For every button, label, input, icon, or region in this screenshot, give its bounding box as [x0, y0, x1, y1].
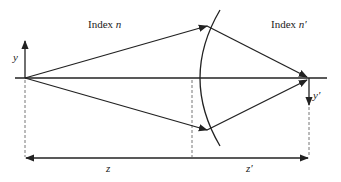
y-label: y [12, 51, 18, 63]
index-n-prime-label: Index n′ [271, 18, 307, 30]
refraction-diagram: Index n Index n′ y y′ z z′ [0, 0, 341, 182]
index-n-label: Index n [88, 18, 122, 30]
lower-ray-incident [25, 78, 207, 130]
upper-ray-refracted [207, 26, 307, 77]
z-label: z [105, 162, 111, 174]
y-prime-label: y′ [312, 89, 321, 101]
z-prime-label: z′ [245, 162, 253, 174]
lower-ray-refracted [207, 80, 307, 130]
upper-ray-incident [25, 26, 207, 78]
